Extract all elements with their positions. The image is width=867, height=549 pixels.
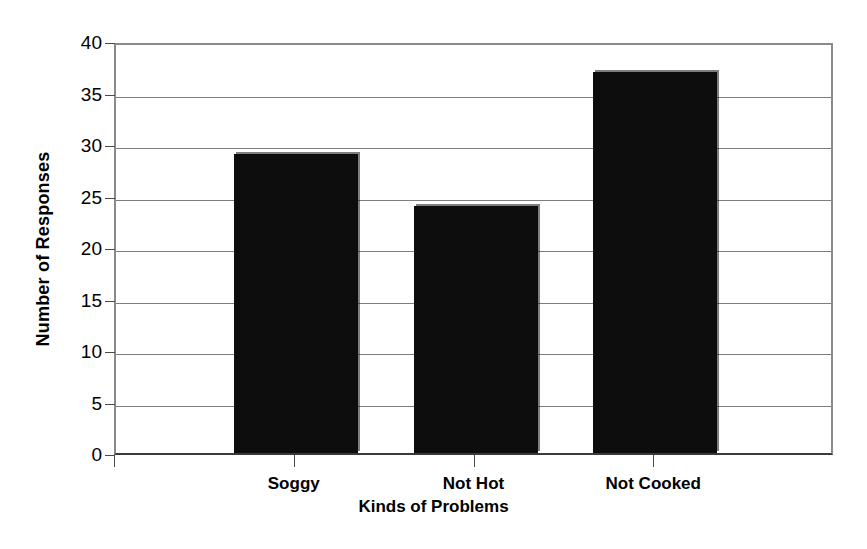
plot-area xyxy=(114,43,833,455)
y-axis-tick-mark xyxy=(105,43,115,44)
y-axis-tick-mark xyxy=(105,352,115,353)
y-axis-tick-label: 20 xyxy=(48,238,102,260)
x-axis-tick-mark xyxy=(653,455,654,467)
x-axis-tick-label: Soggy xyxy=(268,474,320,494)
y-axis-tick-labels: 0510152025303540 xyxy=(40,0,102,549)
y-axis-tick-mark xyxy=(105,198,115,199)
y-axis-tick-mark xyxy=(105,95,115,96)
y-axis-tick-label: 0 xyxy=(48,444,102,466)
y-axis-tick-mark xyxy=(105,301,115,302)
x-axis-tick-mark xyxy=(294,455,295,467)
y-axis-tick-label: 30 xyxy=(48,135,102,157)
y-axis-tick-mark xyxy=(105,146,115,147)
y-axis-tick-label: 15 xyxy=(48,290,102,312)
x-axis-tick-label: Not Cooked xyxy=(606,474,701,494)
bar xyxy=(234,154,358,453)
y-axis-tick-mark xyxy=(105,455,115,456)
bar xyxy=(414,206,538,453)
x-axis-title: Kinds of Problems xyxy=(0,497,867,517)
x-axis-tick-label: Not Hot xyxy=(443,474,504,494)
x-axis-tick-mark xyxy=(474,455,475,467)
bar-chart-figure: Number of Responses 0510152025303540 Sog… xyxy=(0,0,867,549)
gridline xyxy=(116,148,831,149)
y-axis-tick-label: 25 xyxy=(48,187,102,209)
y-axis-tick-label: 5 xyxy=(48,393,102,415)
gridline xyxy=(116,97,831,98)
y-axis-tick-label: 35 xyxy=(48,84,102,106)
bar xyxy=(593,72,717,453)
y-axis-tick-label: 10 xyxy=(48,341,102,363)
y-axis-tick-mark xyxy=(105,249,115,250)
y-axis-tick-mark xyxy=(105,404,115,405)
gridline xyxy=(116,200,831,201)
x-axis-tick-mark xyxy=(114,455,115,467)
y-axis-tick-label: 40 xyxy=(48,32,102,54)
